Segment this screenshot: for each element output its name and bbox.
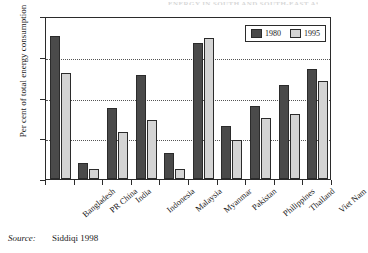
bar-india-1980: [107, 108, 117, 179]
x-tick-mark: [245, 180, 246, 185]
bar-india-1995: [118, 132, 128, 179]
legend-swatch-1995: [290, 29, 301, 38]
bar-malaysia-1980: [164, 153, 174, 179]
legend: 1980 1995: [245, 25, 326, 42]
source-line: Source:Siddiqi 1998: [8, 233, 98, 243]
y-tick-mark: [40, 17, 45, 18]
plot-area: 1980 1995: [45, 17, 331, 180]
y-axis-title: Per cent of total energy consumption: [18, 0, 28, 156]
legend-swatch-1980: [251, 29, 262, 38]
bar-bangladesh-1980: [50, 36, 60, 179]
x-tick-mark: [102, 180, 103, 185]
y-tick-mark: [40, 139, 45, 140]
bar-philippines-1980: [250, 106, 260, 179]
legend-label-1980: 1980: [265, 29, 281, 38]
legend-entry-1980: 1980: [251, 29, 281, 38]
x-tick-mark: [159, 180, 160, 185]
bar-viet-nam-1995: [318, 81, 328, 179]
bar-pr-china-1995: [89, 169, 99, 179]
bar-pakistan-1995: [232, 140, 242, 179]
bar-thailand-1995: [290, 114, 300, 179]
bar-viet-nam-1980: [307, 69, 317, 179]
x-axis-label-pakistan: Pakistan: [250, 186, 278, 212]
x-tick-mark: [274, 180, 275, 185]
bar-myanmar-1995: [204, 38, 214, 179]
legend-entry-1995: 1995: [290, 29, 320, 38]
y-tick-mark: [40, 58, 45, 59]
x-tick-mark: [302, 180, 303, 185]
x-axis-label-malaysia: Malaysia: [193, 186, 223, 214]
bar-bangladesh-1995: [61, 73, 71, 179]
source-label: Source:: [8, 233, 52, 243]
x-tick-mark: [217, 180, 218, 185]
x-tick-mark: [131, 180, 132, 185]
bar-myanmar-1980: [193, 43, 203, 180]
x-axis-label-myanmar: Myanmar: [222, 186, 254, 215]
x-tick-mark: [45, 180, 46, 185]
bar-philippines-1995: [261, 118, 271, 179]
bars-layer: [46, 18, 330, 179]
legend-label-1995: 1995: [304, 29, 320, 38]
x-tick-mark: [331, 180, 332, 185]
source-value: Siddiqi 1998: [52, 233, 98, 243]
x-tick-mark: [74, 180, 75, 185]
x-axis-label-indonesia: Indonesia: [165, 186, 197, 215]
bar-pakistan-1980: [221, 126, 231, 179]
x-tick-mark: [188, 180, 189, 185]
bar-indonesia-1980: [136, 75, 146, 179]
x-axis-label-viet-nam: Viet Nam: [336, 186, 368, 215]
bar-indonesia-1995: [147, 120, 157, 179]
bar-thailand-1980: [279, 85, 289, 179]
bar-malaysia-1995: [175, 169, 185, 179]
bar-pr-china-1980: [78, 163, 88, 179]
y-tick-mark: [40, 99, 45, 100]
